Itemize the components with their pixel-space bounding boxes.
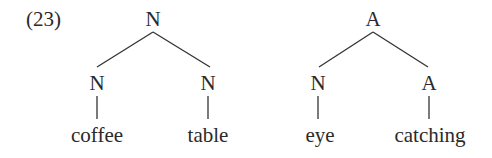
tree2-right-branch xyxy=(373,32,428,67)
tree2-left-word: eye xyxy=(305,125,334,146)
tree2-left-branch xyxy=(319,32,373,67)
tree1-left-word: coffee xyxy=(71,125,123,146)
syntax-tree-diagram: (23) N N N coffee table A N A eye catchi… xyxy=(0,0,492,158)
tree1-right-branch xyxy=(153,32,210,67)
tree1-right-word: table xyxy=(188,125,229,146)
tree1-root-node: N xyxy=(145,9,160,30)
tree2-root-node: A xyxy=(365,9,380,30)
tree2-right-child-node: A xyxy=(421,73,436,94)
tree1-left-child-node: N xyxy=(89,73,104,94)
tree2-left-child-node: N xyxy=(310,73,325,94)
tree1-right-child-node: N xyxy=(200,73,215,94)
tree1-left-branch xyxy=(97,32,153,67)
tree2-right-word: catching xyxy=(394,125,465,146)
